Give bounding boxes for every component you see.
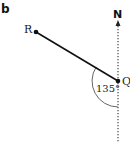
panel-label: b xyxy=(1,2,10,16)
north-label: N xyxy=(113,8,122,21)
segment-rq xyxy=(36,32,118,81)
point-r xyxy=(34,30,39,35)
point-r-label: R xyxy=(24,23,33,36)
angle-label: 135° xyxy=(96,83,120,94)
bearing-diagram: b N R Q 135° xyxy=(0,0,130,167)
point-q-label: Q xyxy=(122,75,130,88)
